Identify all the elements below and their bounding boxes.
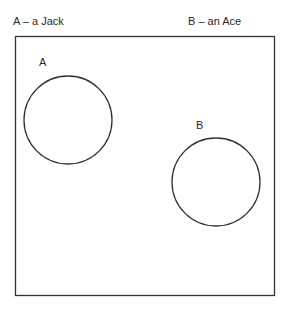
universe-rectangle	[16, 37, 275, 296]
set-b-label: B	[196, 119, 203, 131]
set-b-circle	[172, 138, 260, 226]
venn-diagram	[0, 0, 288, 309]
set-a-circle	[24, 76, 112, 164]
set-a-label: A	[39, 56, 46, 68]
